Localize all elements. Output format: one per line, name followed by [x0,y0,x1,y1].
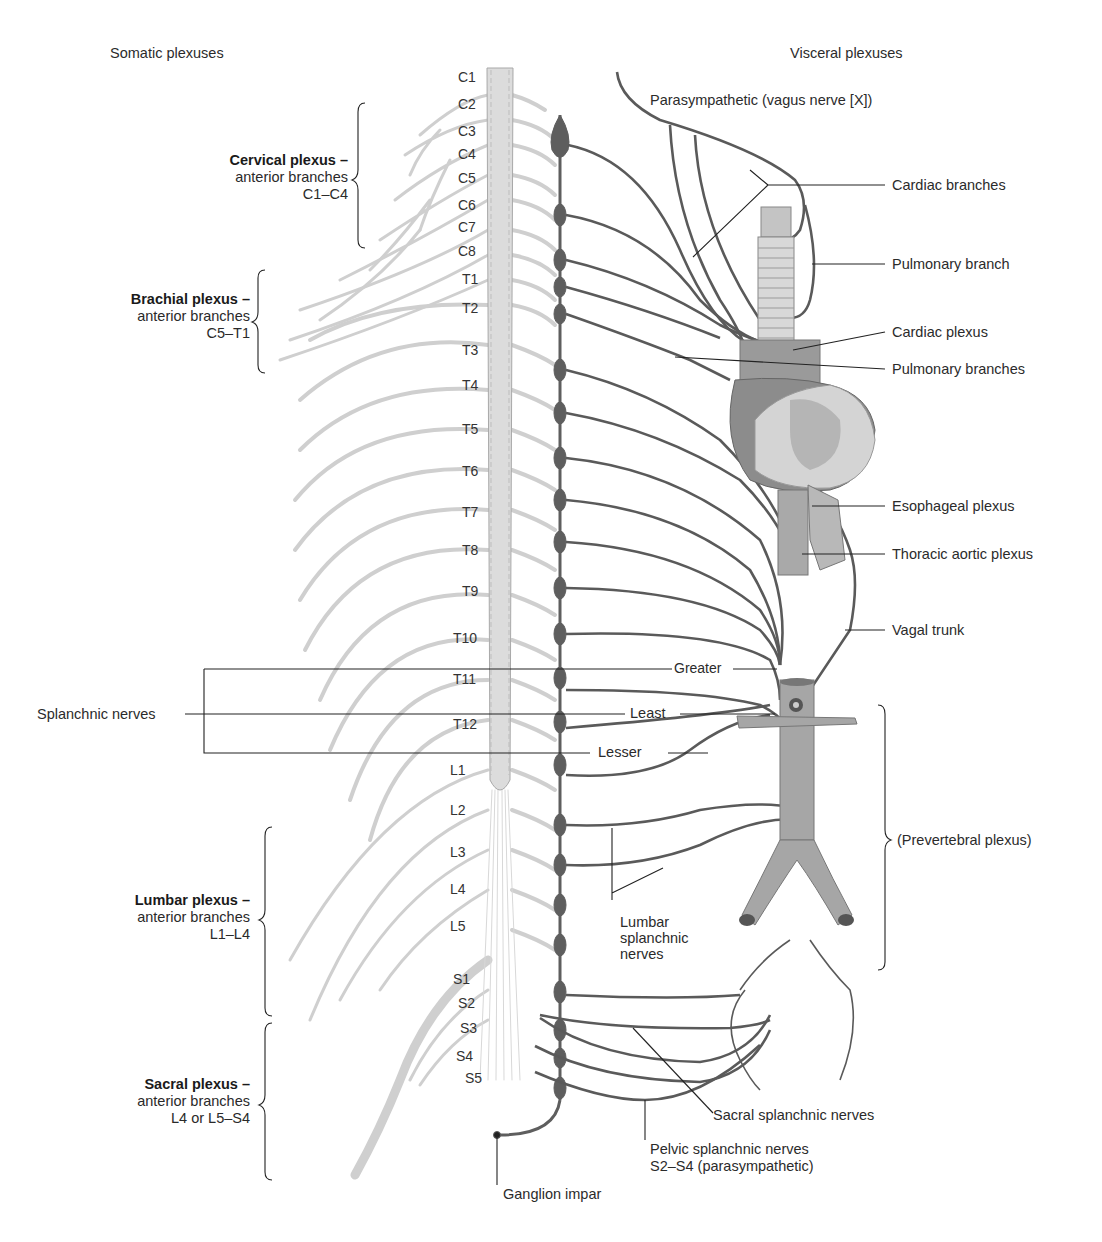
splanchnic-nerves-label: Splanchnic nerves [37,706,156,723]
lumbar-splanchnic-line2: splanchnic [620,930,689,946]
segment-c1: C1 [458,69,476,85]
segment-c4: C4 [458,146,476,162]
segment-c5: C5 [458,170,476,186]
abdominal-aorta [737,678,857,926]
cervical-plexus-desc: anterior branches [230,169,349,186]
brachial-plexus-range: C5–T1 [131,325,250,342]
segment-t10: T10 [453,630,477,646]
segment-s3: S3 [460,1020,477,1036]
somatic-plexuses-header: Somatic plexuses [110,45,224,62]
segment-s4: S4 [456,1048,473,1064]
segment-s2: S2 [458,995,475,1011]
segment-t4: T4 [462,377,478,393]
segment-t3: T3 [462,342,478,358]
brachial-plexus-desc: anterior branches [131,308,250,325]
segment-l4: L4 [450,881,466,897]
heart [730,340,875,491]
lumbar-plexus-label: Lumbar plexus – anterior branches L1–L4 [135,892,250,943]
esophageal-plexus-label: Esophageal plexus [892,498,1015,515]
esophagus-aorta [778,485,845,575]
greater-splanchnic-label: Greater [674,660,721,677]
segment-t1: T1 [462,271,478,287]
parasympathetic-vagus-label: Parasympathetic (vagus nerve [X]) [650,92,872,109]
segment-s5: S5 [465,1070,482,1086]
lumbar-splanchnic-line3: nerves [620,946,689,962]
lesser-splanchnic-label: Lesser [598,744,642,761]
segment-t6: T6 [462,463,478,479]
pulmonary-branches-label: Pulmonary branches [892,361,1025,378]
segment-l2: L2 [450,802,466,818]
sacral-plexus-range: L4 or L5–S4 [137,1110,250,1127]
trachea [758,207,794,347]
segment-l3: L3 [450,844,466,860]
segment-c7: C7 [458,219,476,235]
segment-s1: S1 [453,971,470,987]
segment-t12: T12 [453,716,477,732]
pulmonary-branch-label: Pulmonary branch [892,256,1010,273]
segment-c3: C3 [458,123,476,139]
cardiac-branches-label: Cardiac branches [892,177,1006,194]
sacral-plexus-title: Sacral plexus – [137,1076,250,1093]
thoracic-aortic-plexus-label: Thoracic aortic plexus [892,546,1033,563]
cervical-plexus-range: C1–C4 [230,186,349,203]
segment-t7: T7 [462,504,478,520]
least-splanchnic-label: Least [630,705,665,722]
lumbar-splanchnic-line1: Lumbar [620,914,689,930]
segment-t2: T2 [462,300,478,316]
vagal-trunk-label: Vagal trunk [892,622,964,639]
segment-l1: L1 [450,762,466,778]
cervical-plexus-label: Cervical plexus – anterior branches C1–C… [230,152,349,203]
cervical-plexus-title: Cervical plexus – [230,152,349,169]
segment-t5: T5 [462,421,478,437]
prevertebral-plexus-label: (Prevertebral plexus) [897,832,1032,849]
ganglion-impar-label: Ganglion impar [503,1186,601,1203]
somatic-nerves [280,95,555,1175]
cardiac-plexus-label: Cardiac plexus [892,324,988,341]
brachial-plexus-title: Brachial plexus – [131,291,250,308]
segment-l5: L5 [450,918,466,934]
pelvic-splanchnic-label: Pelvic splanchnic nerves S2–S4 (parasymp… [650,1141,814,1175]
lumbar-plexus-title: Lumbar plexus – [135,892,250,909]
segment-t9: T9 [462,583,478,599]
visceral-nerves [535,72,855,1100]
lumbar-plexus-desc: anterior branches [135,909,250,926]
spinal-cord [487,68,513,790]
segment-t8: T8 [462,542,478,558]
visceral-plexuses-header: Visceral plexuses [790,45,903,62]
segment-c2: C2 [458,96,476,112]
pelvic-splanchnic-line1: Pelvic splanchnic nerves [650,1141,814,1158]
brachial-plexus-label: Brachial plexus – anterior branches C5–T… [131,291,250,342]
segment-c6: C6 [458,197,476,213]
sacral-splanchnic-label: Sacral splanchnic nerves [713,1107,874,1124]
lumbar-plexus-range: L1–L4 [135,926,250,943]
sacral-plexus-label: Sacral plexus – anterior branches L4 or … [137,1076,250,1127]
pelvic-splanchnic-line2: S2–S4 (parasympathetic) [650,1158,814,1175]
segment-c8: C8 [458,243,476,259]
lumbar-splanchnic-label: Lumbar splanchnic nerves [620,914,689,962]
sacral-plexus-desc: anterior branches [137,1093,250,1110]
segment-t11: T11 [453,671,476,687]
